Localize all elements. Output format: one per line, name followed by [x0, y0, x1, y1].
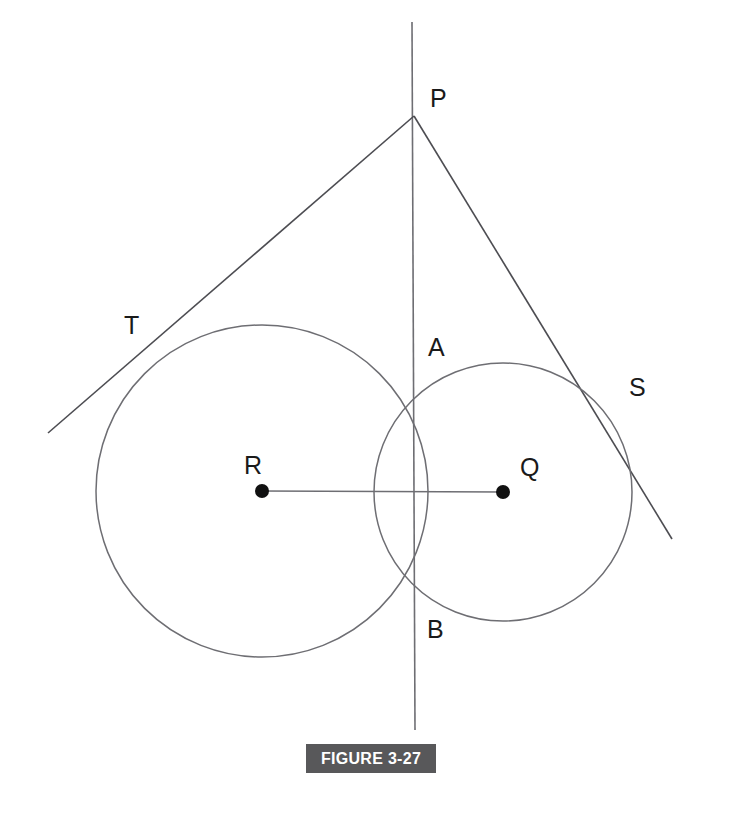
geometry-canvas: [0, 0, 734, 813]
figure-caption-text: FIGURE 3-27: [321, 750, 421, 768]
figure-caption-bar: FIGURE 3-27: [306, 744, 436, 773]
tangent-line-pt: [48, 116, 414, 433]
point-label-p: P: [430, 86, 447, 111]
center-dot-q: [496, 485, 510, 499]
tangent-line-ps: [414, 116, 672, 539]
center-dot-r: [255, 484, 269, 498]
point-label-a: A: [428, 335, 445, 360]
radius-segment-rq: [262, 491, 503, 492]
point-label-q: Q: [520, 455, 539, 480]
point-label-s: S: [629, 375, 646, 400]
vertical-line-ab: [412, 22, 415, 730]
point-label-b: B: [427, 617, 444, 642]
point-label-t: T: [124, 313, 139, 338]
figure-container: P T S A B R Q FIGURE 3-27: [0, 0, 734, 813]
point-label-r: R: [244, 453, 262, 478]
